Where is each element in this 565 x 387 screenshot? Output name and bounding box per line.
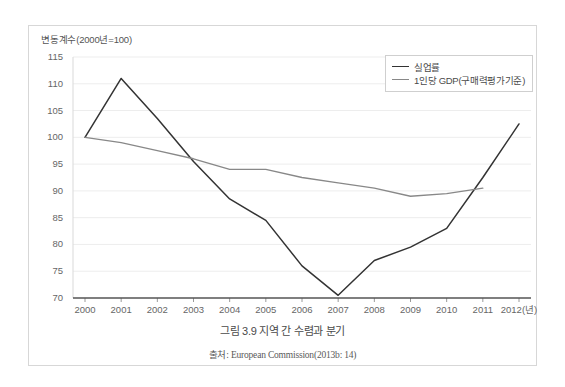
x-tick-label: 2012(년) bbox=[501, 305, 537, 315]
x-tick-label: 2005 bbox=[255, 305, 276, 315]
x-tick-label: 2001 bbox=[111, 305, 132, 315]
chart-legend: 실업률1인당 GDP(구매력평가기준) bbox=[385, 55, 533, 92]
y-tick-label: 100 bbox=[37, 132, 63, 142]
y-tick-label: 70 bbox=[37, 293, 63, 303]
chart-plot-area: 변동계수(2000년=100) 115110105100959085807570… bbox=[29, 26, 538, 367]
x-tick-label: 2003 bbox=[183, 305, 204, 315]
x-tick-label: 2009 bbox=[400, 305, 421, 315]
legend-item-label: 1인당 GDP(구매력평가기준) bbox=[414, 73, 525, 87]
y-tick-label: 90 bbox=[37, 186, 63, 196]
legend-line-swatch-icon bbox=[392, 79, 409, 80]
x-tick-label: 2000 bbox=[74, 305, 95, 315]
x-tick-label: 2011 bbox=[473, 305, 493, 315]
x-tick-label: 2002 bbox=[147, 305, 168, 315]
legend-line-swatch-icon bbox=[392, 66, 409, 67]
y-tick-label: 95 bbox=[37, 159, 63, 169]
series-line-gdp bbox=[85, 137, 483, 196]
x-tick-label: 2010 bbox=[436, 305, 457, 315]
y-tick-label: 75 bbox=[37, 266, 63, 276]
legend-item[interactable]: 실업률 bbox=[392, 60, 525, 73]
figure-root: 변동계수(2000년=100) 115110105100959085807570… bbox=[0, 0, 565, 387]
figure-source: 출처: European Commission(2013b: 14) bbox=[29, 347, 536, 361]
x-tick-label: 2004 bbox=[219, 305, 240, 315]
legend-item[interactable]: 1인당 GDP(구매력평가기준) bbox=[392, 73, 525, 86]
y-tick-label: 105 bbox=[37, 106, 63, 116]
caption-block: 그림 3.9 지역 간 수렴과 분기 출처: European Commissi… bbox=[29, 322, 536, 361]
x-tick-label: 2007 bbox=[328, 305, 349, 315]
y-tick-label: 115 bbox=[37, 52, 63, 62]
y-tick-label: 85 bbox=[37, 213, 63, 223]
y-tick-label: 110 bbox=[37, 79, 63, 89]
x-tick-label: 2008 bbox=[364, 305, 385, 315]
figure-caption: 그림 3.9 지역 간 수렴과 분기 bbox=[29, 322, 536, 338]
figure-frame: 변동계수(2000년=100) 115110105100959085807570… bbox=[28, 25, 537, 366]
y-tick-label: 80 bbox=[37, 239, 63, 249]
legend-item-label: 실업률 bbox=[414, 60, 440, 74]
x-tick-label: 2006 bbox=[291, 305, 312, 315]
